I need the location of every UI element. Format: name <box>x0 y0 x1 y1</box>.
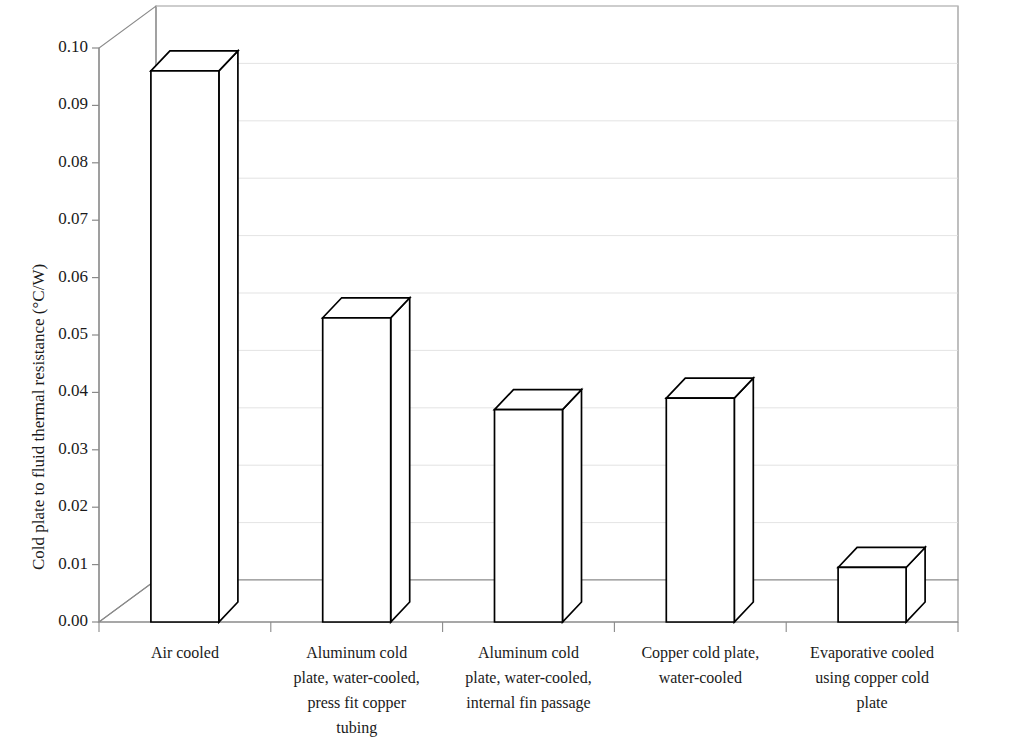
x-axis-category-label-4: Evaporative cooledusing copper coldplate <box>786 640 958 715</box>
category-label-line: plate, water-cooled, <box>271 665 443 690</box>
y-axis-title-container: Cold plate to fluid thermal resistance (… <box>8 0 34 622</box>
chart-figure: Cold plate to fluid thermal resistance (… <box>0 0 1018 741</box>
category-label-line: Copper cold plate, <box>614 640 786 665</box>
x-axis-category-label-3: Copper cold plate,water-cooled <box>614 640 786 690</box>
bar-side-2 <box>563 390 582 622</box>
category-label-line: Evaporative cooled <box>786 640 958 665</box>
category-label-line: Aluminum cold <box>443 640 615 665</box>
category-label-line: plate, water-cooled, <box>443 665 615 690</box>
y-axis-tick-label-9: 0.09 <box>36 94 88 114</box>
y-axis-tick-label-6: 0.06 <box>36 267 88 287</box>
bar-column-0 <box>151 51 238 622</box>
bar-side-0 <box>219 51 238 622</box>
bar-column-1 <box>323 298 410 622</box>
category-label-line: water-cooled <box>614 665 786 690</box>
bar-side-1 <box>391 298 410 622</box>
category-label-line: Aluminum cold <box>271 640 443 665</box>
y-axis-tick-label-10: 0.10 <box>36 37 88 57</box>
x-axis-category-label-1: Aluminum coldplate, water-cooled,press f… <box>271 640 443 740</box>
bar-column-2 <box>495 390 582 622</box>
y-axis-tick-label-2: 0.02 <box>36 496 88 516</box>
category-label-line: plate <box>786 690 958 715</box>
y-axis-tick-label-8: 0.08 <box>36 152 88 172</box>
bar-front-0 <box>151 71 219 622</box>
y-axis-tick-label-5: 0.05 <box>36 324 88 344</box>
x-axis-category-label-2: Aluminum coldplate, water-cooled,interna… <box>443 640 615 715</box>
category-label-line: Air cooled <box>99 640 271 665</box>
category-label-line: press fit copper <box>271 690 443 715</box>
bar-side-3 <box>734 378 753 622</box>
category-label-line: tubing <box>271 715 443 740</box>
bar-column-4 <box>838 547 925 622</box>
bar-front-2 <box>495 410 563 622</box>
bar-front-4 <box>838 567 906 622</box>
x-axis-category-label-0: Air cooled <box>99 640 271 665</box>
y-axis-tick-label-3: 0.03 <box>36 439 88 459</box>
bar-front-3 <box>666 398 734 622</box>
y-axis-tick-label-0: 0.00 <box>36 611 88 631</box>
category-label-line: internal fin passage <box>443 690 615 715</box>
y-axis-tick-label-7: 0.07 <box>36 209 88 229</box>
bar-front-1 <box>323 318 391 622</box>
y-axis-tick-label-1: 0.01 <box>36 554 88 574</box>
left-wall <box>99 6 156 622</box>
category-label-line: using copper cold <box>786 665 958 690</box>
y-axis-title: Cold plate to fluid thermal resistance (… <box>29 264 49 570</box>
bar-column-3 <box>666 378 753 622</box>
y-axis-tick-label-4: 0.04 <box>36 381 88 401</box>
chart-plot-area <box>0 0 1018 741</box>
